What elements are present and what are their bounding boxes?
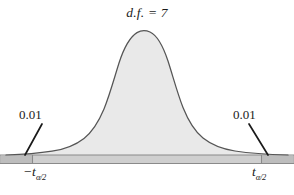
t-distribution-figure: d.f. = 7 0.01 0.01 −tα/2 tα/2 xyxy=(0,0,294,195)
right-leader-line xyxy=(249,124,268,155)
central-region-fill xyxy=(6,31,288,155)
left-leader-line xyxy=(25,124,42,155)
distribution-plot xyxy=(0,0,294,195)
left-tail-band xyxy=(1,156,33,164)
axis-bar xyxy=(0,155,294,164)
right-tail-band xyxy=(262,156,294,164)
